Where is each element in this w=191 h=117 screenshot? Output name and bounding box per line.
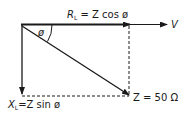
phase-angle-arc xyxy=(48,25,53,42)
voltage-label: V xyxy=(171,19,179,30)
resistance-label-rest: = Z cos ø xyxy=(77,9,128,20)
reactance-label: XL=Z sin ø xyxy=(7,99,60,111)
resistance-label-main: R xyxy=(67,9,74,20)
impedance-label: Z = 50 Ω xyxy=(133,92,178,103)
resistance-label: RL = Z cos ø xyxy=(67,9,128,21)
angle-label: ø xyxy=(37,27,45,38)
reactance-label-rest: =Z sin ø xyxy=(18,99,60,110)
phasor-diagram: ø RL = Z cos ø V XL=Z sin ø Z = 50 Ω xyxy=(0,0,191,117)
